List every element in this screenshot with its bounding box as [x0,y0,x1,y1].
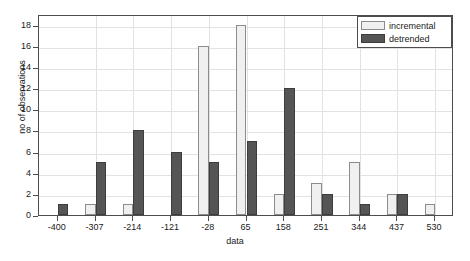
y-tick-label: 16 [0,42,31,51]
y-tick-label: 6 [0,148,31,157]
x-tick-mark [321,216,322,221]
y-tick-label: 10 [0,105,31,114]
legend-label-detrended: detrended [389,34,430,44]
x-tick-label: -121 [150,222,190,232]
x-tick-mark [246,216,247,221]
legend-swatch-detrended [361,34,385,43]
bar-detrended-437 [397,194,408,215]
bar-detrended--28 [209,162,220,215]
bar-incremental-344 [349,162,360,215]
y-tick-mark [33,216,38,217]
x-tick-label: -307 [75,222,115,232]
x-tick-label: -400 [37,222,77,232]
bar-incremental--28 [198,46,209,215]
x-tick-mark [283,216,284,221]
x-tick-mark [359,216,360,221]
x-tick-label: 530 [414,222,454,232]
y-tick-label: 18 [0,21,31,30]
bar-detrended-65 [247,141,258,215]
x-tick-label: 251 [301,222,341,232]
y-tick-label: 2 [0,190,31,199]
bar-detrended-158 [284,88,295,215]
bar-detrended-251 [322,194,333,215]
bar-detrended-344 [360,204,371,215]
x-tick-label: 437 [376,222,416,232]
bar-detrended--400 [58,204,69,215]
legend-label-incremental: incremental [389,21,436,31]
chart-legend: incremental detrended [357,16,452,48]
x-axis-title: data [0,236,470,246]
gridline-vertical [322,16,323,215]
y-tick-label: 12 [0,84,31,93]
x-tick-mark [434,216,435,221]
x-tick-label: 65 [226,222,266,232]
bar-incremental-65 [236,25,247,215]
x-tick-mark [396,216,397,221]
bar-incremental-158 [274,194,285,215]
legend-item-detrended: detrended [361,32,448,45]
x-tick-mark [57,216,58,221]
bar-detrended--307 [96,162,107,215]
x-tick-label: -214 [112,222,152,232]
y-tick-label: 4 [0,169,31,178]
bar-chart-figure: no of observations 024681012141618 -400-… [0,0,470,261]
bar-incremental-437 [387,194,398,215]
y-tick-label: 0 [0,211,31,220]
x-tick-mark [170,216,171,221]
y-tick-label: 14 [0,63,31,72]
bar-detrended--121 [171,152,182,215]
bar-incremental-530 [425,204,436,215]
bar-incremental--307 [85,204,96,215]
legend-item-incremental: incremental [361,19,448,32]
bar-detrended--214 [133,130,144,215]
x-tick-label: -28 [188,222,228,232]
x-tick-mark [208,216,209,221]
bar-incremental-251 [311,183,322,215]
legend-swatch-incremental [361,21,385,30]
x-tick-label: 158 [263,222,303,232]
x-tick-mark [132,216,133,221]
x-tick-mark [95,216,96,221]
bar-incremental--214 [123,204,134,215]
x-tick-label: 344 [339,222,379,232]
y-tick-label: 8 [0,126,31,135]
